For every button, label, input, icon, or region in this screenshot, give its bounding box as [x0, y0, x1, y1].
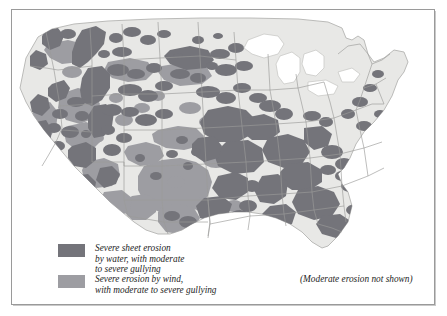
erosion-map-figure: Severe sheet erosion by water, with mode… — [0, 0, 447, 316]
legend-label-water-erosion: Severe sheet erosion by water, with mode… — [95, 243, 184, 275]
legend-label-water-line-1: Severe sheet erosion — [95, 243, 184, 254]
legend-label-wind-line-1: Severe erosion by wind, — [95, 274, 217, 285]
legend-label-water-line-2: by water, with moderate — [95, 254, 184, 265]
map-legend: Severe sheet erosion by water, with mode… — [58, 243, 388, 299]
legend-item-water-erosion: Severe sheet erosion by water, with mode… — [58, 243, 184, 275]
legend-item-wind-erosion: Severe erosion by wind, with moderate to… — [58, 274, 217, 295]
legend-label-wind-erosion: Severe erosion by wind, with moderate to… — [95, 274, 217, 295]
legend-label-wind-line-2: with moderate to severe gullying — [95, 285, 217, 296]
legend-note: (Moderate erosion not shown) — [300, 274, 413, 284]
legend-swatch-wind-erosion — [58, 275, 85, 288]
legend-swatch-water-erosion — [58, 244, 85, 257]
